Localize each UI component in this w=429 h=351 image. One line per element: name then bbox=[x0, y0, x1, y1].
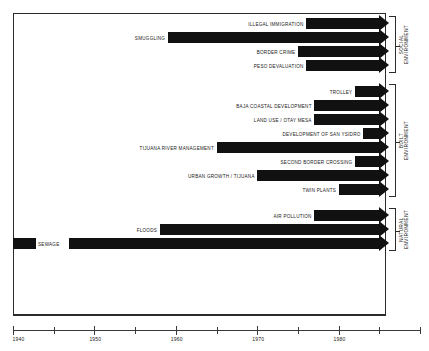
timeline-row: TIJUANA RIVER MANAGEMENT bbox=[0, 142, 429, 156]
bar-body bbox=[13, 238, 36, 249]
group-bracket bbox=[389, 16, 396, 73]
timeline-row: BORDER CRIME bbox=[0, 46, 429, 60]
axis-tick-major bbox=[257, 326, 258, 336]
timeline-row: FLOODS bbox=[0, 224, 429, 238]
timeline-row: ILLEGAL IMMIGRATION bbox=[0, 18, 429, 32]
timeline-bar bbox=[69, 238, 389, 249]
timeline-row: URBAN GROWTH / TIJUANA bbox=[0, 170, 429, 184]
bar-label: SECOND BORDER CROSSING bbox=[281, 157, 353, 168]
timeline-row: DEVELOPMENT OF SAN YSIDRO bbox=[0, 128, 429, 142]
bar-arrowhead-icon bbox=[379, 181, 389, 197]
timeline-bar bbox=[314, 100, 389, 111]
axis-tick-minor bbox=[135, 327, 136, 335]
axis-tick-major bbox=[339, 326, 340, 336]
bar-body bbox=[306, 18, 380, 29]
bar-label: SMUGGLING bbox=[135, 33, 165, 44]
bar-body bbox=[355, 156, 380, 167]
axis-tick-minor bbox=[420, 327, 421, 335]
timeline-bar bbox=[298, 46, 389, 57]
group-label: SOCIALENVIRONMENT bbox=[399, 0, 410, 90]
bar-label: LAND USE / OTAY MESA bbox=[254, 115, 312, 126]
issue-timeline-figure: ILLEGAL IMMIGRATIONSMUGGLINGBORDER CRIME… bbox=[0, 0, 429, 351]
axis-tick-major bbox=[176, 326, 177, 336]
bar-arrowhead-icon bbox=[379, 235, 389, 251]
timeline-bar bbox=[339, 184, 390, 195]
timeline-bar bbox=[314, 210, 389, 221]
bar-arrowhead-icon bbox=[379, 57, 389, 73]
timeline-row: SMUGGLING bbox=[0, 32, 429, 46]
bar-body bbox=[314, 114, 380, 125]
bar-body bbox=[217, 142, 381, 153]
bar-body bbox=[355, 86, 380, 97]
timeline-bar bbox=[160, 224, 390, 235]
bar-label: TROLLEY bbox=[330, 87, 353, 98]
timeline-row: TWIN PLANTS bbox=[0, 184, 429, 198]
bar-label: URBAN GROWTH / TIJUANA bbox=[188, 171, 255, 182]
axis-tick-label: 1960 bbox=[171, 336, 183, 342]
timeline-bar bbox=[306, 18, 389, 29]
bar-label: TIJUANA RIVER MANAGEMENT bbox=[140, 143, 214, 154]
timeline-bar bbox=[355, 86, 389, 97]
bar-label: SEWAGE bbox=[38, 239, 67, 250]
axis-tick-major bbox=[94, 326, 95, 336]
bar-body bbox=[168, 32, 381, 43]
group-bracket bbox=[389, 84, 396, 197]
axis-tick-label: 1950 bbox=[89, 336, 101, 342]
axis-tick-minor bbox=[379, 327, 380, 335]
timeline-row: PESO DEVALUATION bbox=[0, 60, 429, 74]
bar-body bbox=[257, 170, 380, 181]
bar-label: FLOODS bbox=[137, 225, 157, 236]
group-bracket bbox=[389, 208, 396, 251]
timeline-row: TROLLEY bbox=[0, 86, 429, 100]
bar-label: ILLEGAL IMMIGRATION bbox=[248, 19, 303, 30]
bar-label: BORDER CRIME bbox=[257, 47, 296, 58]
bar-label: AIR POLLUTION bbox=[273, 211, 311, 222]
axis-tick-minor bbox=[54, 327, 55, 335]
bar-body bbox=[339, 184, 381, 195]
timeline-bar bbox=[257, 170, 389, 181]
bar-label: PESO DEVALUATION bbox=[254, 61, 304, 72]
group-label: BUILTENVIRONMENT bbox=[399, 96, 410, 186]
time-axis: 19401950196019701980 bbox=[13, 330, 420, 351]
timeline-row: LAND USE / OTAY MESA bbox=[0, 114, 429, 128]
axis-tick-label: 1940 bbox=[13, 336, 25, 342]
bar-label: BAJA COASTAL DEVELOPMENT bbox=[236, 101, 311, 112]
axis-tick-label: 1970 bbox=[252, 336, 264, 342]
bar-label: TWIN PLANTS bbox=[302, 185, 336, 196]
timeline-bar bbox=[217, 142, 390, 153]
timeline-bar bbox=[306, 60, 389, 71]
timeline-row: SECOND BORDER CROSSING bbox=[0, 156, 429, 170]
bar-body bbox=[306, 60, 380, 71]
timeline-bar bbox=[355, 156, 389, 167]
bar-body bbox=[298, 46, 380, 57]
timeline-row: AIR POLLUTION bbox=[0, 210, 429, 224]
timeline-bar bbox=[168, 32, 390, 43]
bar-body bbox=[314, 210, 380, 221]
bar-body bbox=[160, 224, 381, 235]
axis-tick-major bbox=[13, 326, 14, 336]
bar-body bbox=[69, 238, 380, 249]
timeline-row: BAJA COASTAL DEVELOPMENT bbox=[0, 100, 429, 114]
axis-tick-minor bbox=[217, 327, 218, 335]
group-label: NATURALENVIRONMENT bbox=[399, 185, 410, 275]
axis-tick-minor bbox=[298, 327, 299, 335]
bar-body bbox=[363, 128, 380, 139]
timeline-row: SEWAGE bbox=[0, 238, 429, 252]
timeline-bar bbox=[314, 114, 389, 125]
timeline-bar bbox=[363, 128, 389, 139]
axis-tick-label: 1980 bbox=[334, 336, 346, 342]
bar-label: DEVELOPMENT OF SAN YSIDRO bbox=[282, 129, 360, 140]
bar-body bbox=[314, 100, 380, 111]
